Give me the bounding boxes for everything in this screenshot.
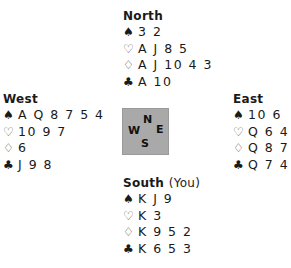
east-name: East: [233, 92, 263, 106]
west-clubs-cards: J 9 8: [18, 157, 53, 172]
east-spades-cards: 10 6: [248, 107, 282, 122]
compass-south: S: [141, 137, 149, 150]
north-hearts: ♡A J 8 5: [123, 41, 213, 58]
south-diamonds-cards: K 9 5 2: [138, 224, 192, 239]
club-icon: ♣: [3, 157, 18, 174]
diamond-icon: ♢: [123, 224, 138, 241]
north-hearts-cards: A J 8 5: [138, 41, 189, 56]
west-spades: ♠A Q 8 7 5 4: [3, 107, 105, 124]
east-hearts: ♡Q 6 4 2: [233, 124, 291, 141]
diamond-icon: ♢: [123, 57, 138, 74]
south-hearts: ♡K 3: [123, 208, 200, 225]
west-label: West: [3, 92, 105, 107]
east-diamonds-cards: Q 8 7: [248, 140, 289, 155]
south-clubs-cards: K 6 5 3: [138, 241, 192, 256]
spade-icon: ♠: [233, 107, 248, 124]
west-diamonds: ♢6: [3, 140, 105, 157]
compass-west: W: [128, 124, 140, 137]
north-diamonds-cards: A J 10 4 3: [138, 57, 213, 72]
compass-east: E: [156, 123, 164, 136]
east-clubs-cards: Q 7 4 2: [248, 157, 291, 172]
club-icon: ♣: [123, 74, 138, 91]
south-label: South (You): [123, 176, 200, 191]
east-spades: ♠10 6: [233, 107, 291, 124]
south-spades-cards: K J 9: [138, 191, 173, 206]
south-hand: South (You) ♠K J 9 ♡K 3 ♢K 9 5 2 ♣K 6 5 …: [123, 176, 200, 257]
compass-table: N W E S: [122, 108, 169, 155]
spade-icon: ♠: [3, 107, 18, 124]
compass-north: N: [143, 113, 152, 126]
north-clubs: ♣A 10: [123, 74, 213, 91]
heart-icon: ♡: [123, 41, 138, 58]
east-hearts-cards: Q 6 4 2: [248, 124, 291, 139]
club-icon: ♣: [233, 157, 248, 174]
heart-icon: ♡: [3, 124, 18, 141]
diamond-icon: ♢: [233, 140, 248, 157]
north-hand: North ♠3 2 ♡A J 8 5 ♢A J 10 4 3 ♣A 10: [123, 9, 213, 90]
west-clubs: ♣J 9 8: [3, 157, 105, 174]
south-hearts-cards: K 3: [138, 208, 163, 223]
north-spades-cards: 3 2: [138, 24, 162, 39]
heart-icon: ♡: [233, 124, 248, 141]
south-name: South: [123, 176, 164, 190]
west-name: West: [3, 92, 38, 106]
west-diamonds-cards: 6: [18, 140, 27, 155]
north-spades: ♠3 2: [123, 24, 213, 41]
club-icon: ♣: [123, 241, 138, 258]
you-indicator: (You): [169, 176, 201, 190]
west-spades-cards: A Q 8 7 5 4: [18, 107, 105, 122]
west-hearts: ♡10 9 7: [3, 124, 105, 141]
south-diamonds: ♢K 9 5 2: [123, 224, 200, 241]
heart-icon: ♡: [123, 208, 138, 225]
south-spades: ♠K J 9: [123, 191, 200, 208]
spade-icon: ♠: [123, 24, 138, 41]
west-hearts-cards: 10 9 7: [18, 124, 67, 139]
north-label: North: [123, 9, 213, 24]
diamond-icon: ♢: [3, 140, 18, 157]
north-diamonds: ♢A J 10 4 3: [123, 57, 213, 74]
spade-icon: ♠: [123, 191, 138, 208]
east-label: East: [233, 92, 291, 107]
north-name: North: [123, 9, 163, 23]
east-diamonds: ♢Q 8 7: [233, 140, 291, 157]
east-hand: East ♠10 6 ♡Q 6 4 2 ♢Q 8 7 ♣Q 7 4 2: [233, 92, 291, 173]
south-clubs: ♣K 6 5 3: [123, 241, 200, 258]
west-hand: West ♠A Q 8 7 5 4 ♡10 9 7 ♢6 ♣J 9 8: [3, 92, 105, 173]
north-clubs-cards: A 10: [138, 74, 172, 89]
east-clubs: ♣Q 7 4 2: [233, 157, 291, 174]
